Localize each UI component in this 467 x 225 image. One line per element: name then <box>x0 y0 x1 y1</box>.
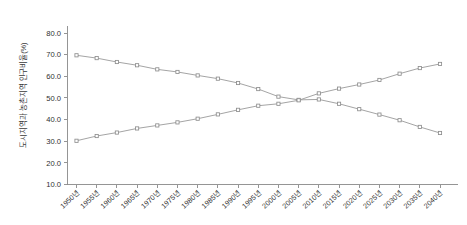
x-tick-label: 1995년 <box>240 188 263 210</box>
data-point-marker <box>418 125 421 128</box>
x-tick-label: 2015년 <box>321 188 344 210</box>
x-tick-label: 1955년 <box>78 188 101 210</box>
x-tick-label: 2030년 <box>381 188 404 210</box>
data-point-marker <box>277 95 280 98</box>
data-point-marker <box>115 131 118 134</box>
data-point-marker <box>156 68 159 71</box>
data-point-marker <box>337 102 340 105</box>
x-tick-label: 1985년 <box>200 188 223 210</box>
data-point-marker <box>378 113 381 116</box>
y-axis-ticks: 10.020.030.040.050.060.070.080.0 <box>46 29 67 190</box>
x-tick-label: 2005년 <box>280 188 303 210</box>
plot-area: 10.020.030.040.050.060.070.080.0 1950년19… <box>0 0 467 225</box>
data-point-marker <box>176 121 179 124</box>
data-point-marker <box>257 87 260 90</box>
data-point-marker <box>358 108 361 111</box>
x-tick-label: 2040년 <box>422 188 445 210</box>
data-point-marker <box>438 131 441 134</box>
series-line-0 <box>77 55 441 133</box>
data-point-marker <box>277 102 280 105</box>
data-point-marker <box>317 98 320 101</box>
y-tick-label: 60.0 <box>46 72 61 81</box>
data-point-marker <box>337 87 340 90</box>
x-tick-label: 1975년 <box>159 188 182 210</box>
data-point-marker <box>115 60 118 63</box>
data-point-marker <box>257 104 260 107</box>
line-chart: 도시지역과 농촌지역 인구비율(%) 10.020.030.040.050.06… <box>0 0 467 225</box>
y-tick-label: 80.0 <box>46 29 61 38</box>
series-line-1 <box>77 64 441 141</box>
data-point-marker <box>75 139 78 142</box>
x-tick-label: 1965년 <box>119 188 142 210</box>
data-point-marker <box>196 117 199 120</box>
data-point-marker <box>216 77 219 80</box>
y-tick-label: 30.0 <box>46 137 61 146</box>
x-tick-label: 2010년 <box>301 188 324 210</box>
data-point-marker <box>196 74 199 77</box>
data-point-marker <box>398 119 401 122</box>
x-axis-ticks <box>77 185 441 189</box>
x-tick-label: 1980년 <box>179 188 202 210</box>
x-tick-label: 1970년 <box>139 188 162 210</box>
y-tick-label: 50.0 <box>46 94 61 103</box>
x-tick-label: 1950년 <box>58 188 81 210</box>
data-point-marker <box>297 99 300 102</box>
data-point-marker <box>75 54 78 57</box>
data-point-marker <box>236 81 239 84</box>
data-point-marker <box>358 83 361 86</box>
x-tick-label: 2025년 <box>361 188 384 210</box>
data-point-marker <box>156 124 159 127</box>
data-point-marker <box>378 78 381 81</box>
data-point-marker <box>317 92 320 95</box>
data-point-marker <box>135 64 138 67</box>
x-tick-label: 1960년 <box>99 188 122 210</box>
y-tick-label: 40.0 <box>46 115 61 124</box>
y-tick-label: 20.0 <box>46 159 61 168</box>
data-point-marker <box>95 57 98 60</box>
y-tick-label: 70.0 <box>46 50 61 59</box>
x-tick-label: 2035년 <box>402 188 425 210</box>
data-point-marker <box>135 127 138 130</box>
x-tick-label: 1990년 <box>220 188 243 210</box>
data-point-marker <box>418 66 421 69</box>
data-point-marker <box>398 72 401 75</box>
series-markers <box>75 54 442 143</box>
series-lines <box>77 55 441 140</box>
data-point-marker <box>438 62 441 65</box>
x-tick-label: 2000년 <box>260 188 283 210</box>
data-point-marker <box>176 70 179 73</box>
x-tick-label: 2020년 <box>341 188 364 210</box>
data-point-marker <box>95 134 98 137</box>
x-axis-labels: 1950년1955년1960년1965년1970년1975년1980년1985년… <box>58 188 445 210</box>
data-point-marker <box>216 113 219 116</box>
data-point-marker <box>236 108 239 111</box>
y-tick-label: 10.0 <box>46 180 61 189</box>
